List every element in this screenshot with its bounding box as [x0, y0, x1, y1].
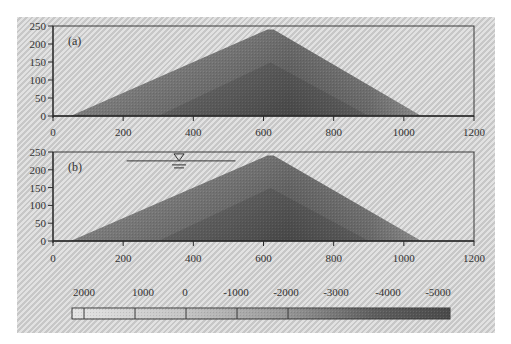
panel-a: 020040060080010001200050100150200250(a): [30, 20, 486, 138]
y-tick-label: 150: [30, 182, 47, 194]
panel-label: (b): [68, 160, 82, 174]
y-tick-label: 250: [30, 20, 47, 32]
colorbar-label: -1000: [223, 286, 249, 298]
colorbar-label: -2000: [273, 286, 299, 298]
y-tick-label: 0: [41, 110, 47, 122]
y-tick-label: 250: [30, 146, 47, 158]
y-tick-label: 200: [30, 164, 47, 176]
x-tick-label: 800: [325, 126, 342, 138]
x-tick-label: 0: [50, 126, 56, 138]
panel-label: (a): [68, 34, 81, 48]
x-tick-label: 400: [185, 252, 202, 264]
x-tick-label: 200: [115, 252, 132, 264]
colorbar-label: 1000: [132, 286, 155, 298]
x-tick-label: 600: [255, 126, 272, 138]
y-tick-label: 100: [30, 199, 47, 211]
x-tick-label: 1200: [463, 126, 486, 138]
x-tick-label: 400: [185, 126, 202, 138]
y-tick-label: 150: [30, 56, 47, 68]
x-tick-label: 800: [325, 252, 342, 264]
colorbar-label: 0: [182, 286, 188, 298]
figure: 020040060080010001200050100150200250(a) …: [0, 0, 511, 344]
y-tick-label: 0: [41, 235, 47, 247]
colorbar-label: 2000: [73, 286, 96, 298]
y-tick-label: 100: [30, 74, 47, 86]
y-tick-label: 200: [30, 38, 47, 50]
water-level-icon: [174, 154, 184, 161]
colorbar-label: -5000: [425, 286, 451, 298]
colorbar-label: -4000: [375, 286, 401, 298]
x-tick-label: 1200: [463, 252, 486, 264]
y-tick-label: 50: [35, 217, 47, 229]
y-tick-label: 50: [35, 92, 47, 104]
colorbar-label: -3000: [323, 286, 349, 298]
x-tick-label: 1000: [393, 126, 416, 138]
x-tick-label: 1000: [393, 252, 416, 264]
x-tick-label: 200: [115, 126, 132, 138]
x-tick-label: 0: [50, 252, 56, 264]
panel-b: 020040060080010001200050100150200250(b): [30, 146, 486, 264]
colorbar: 200010000-1000-2000-3000-4000-5000: [72, 286, 451, 319]
x-tick-label: 600: [255, 252, 272, 264]
